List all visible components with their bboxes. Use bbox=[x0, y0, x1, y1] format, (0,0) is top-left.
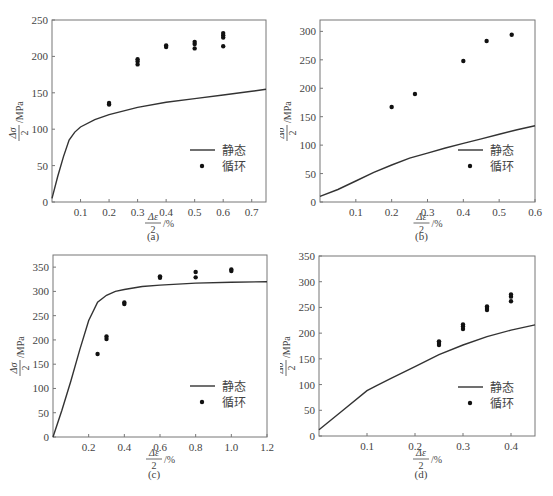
y-tick-label: 100 bbox=[300, 139, 317, 151]
y-tick-label: 50 bbox=[37, 160, 49, 172]
legend-static-label: 静态 bbox=[490, 144, 514, 158]
y-tick-label: 200 bbox=[300, 82, 317, 94]
x-tick-label: 0.1 bbox=[349, 206, 363, 218]
x-tick-label: 0.2 bbox=[82, 441, 96, 453]
cyclic-point bbox=[95, 352, 99, 356]
cyclic-point bbox=[158, 274, 162, 278]
svg-text:Δε: Δε bbox=[147, 211, 158, 222]
x-tick-label: 0.8 bbox=[189, 441, 203, 453]
static-curve bbox=[319, 325, 535, 430]
svg-text:Δε: Δε bbox=[416, 211, 427, 222]
cyclic-point bbox=[107, 101, 111, 105]
y-tick-label: 150 bbox=[299, 353, 316, 365]
cyclic-point bbox=[461, 59, 465, 63]
y-axis-label: Δσ2/MPa bbox=[280, 336, 297, 376]
svg-text:/%: /% bbox=[163, 218, 174, 229]
y-tick-label: 200 bbox=[33, 334, 50, 346]
cyclic-point bbox=[221, 31, 225, 35]
legend-cyclic-label: 循环 bbox=[490, 397, 514, 411]
subfigure-caption: (d) bbox=[415, 468, 428, 481]
x-tick-label: 0.5 bbox=[492, 206, 506, 218]
x-tick-label: 0.6 bbox=[216, 206, 230, 218]
svg-text:Δε: Δε bbox=[148, 447, 159, 458]
static-curve bbox=[53, 282, 267, 437]
x-tick-label: 0.4 bbox=[504, 440, 518, 452]
cyclic-point bbox=[135, 57, 139, 61]
x-tick-label: 0.2 bbox=[385, 206, 399, 218]
cyclic-point bbox=[104, 334, 108, 338]
legend-static-label: 静态 bbox=[222, 144, 246, 158]
svg-text:/%: /% bbox=[164, 454, 175, 465]
cyclic-point bbox=[192, 40, 196, 44]
cyclic-point bbox=[509, 292, 513, 296]
cyclic-point bbox=[509, 299, 513, 303]
y-axis-label: Δσ2/MPa bbox=[7, 101, 30, 141]
svg-text:/MPa: /MPa bbox=[281, 336, 292, 358]
chart-b: 0501001502002503000.10.20.30.40.50.6静态循环… bbox=[280, 0, 553, 250]
y-tick-label: 150 bbox=[300, 111, 317, 123]
x-tick-label: 0.4 bbox=[456, 206, 470, 218]
legend-cyclic-label: 循环 bbox=[490, 160, 514, 174]
y-tick-label: 100 bbox=[32, 123, 49, 135]
x-tick-label: 0.3 bbox=[456, 440, 470, 452]
panel-d: 0501001502002503003500.10.20.30.4静态循环Δσ2… bbox=[280, 250, 553, 496]
x-tick-label: 0.4 bbox=[117, 441, 131, 453]
y-tick-label: 0 bbox=[311, 196, 317, 208]
x-tick-label: 1.0 bbox=[224, 441, 238, 453]
svg-text:Δε: Δε bbox=[415, 447, 426, 458]
cyclic-point bbox=[413, 92, 417, 96]
y-tick-label: 250 bbox=[33, 310, 50, 322]
svg-text:/MPa: /MPa bbox=[14, 101, 25, 123]
cyclic-point bbox=[484, 39, 488, 43]
svg-text:Δσ: Δσ bbox=[7, 127, 18, 140]
legend-cyclic-label: 循环 bbox=[222, 396, 246, 410]
cyclic-point bbox=[485, 304, 489, 308]
cyclic-point bbox=[164, 43, 168, 47]
x-tick-label: 0.4 bbox=[159, 206, 173, 218]
y-tick-label: 300 bbox=[33, 285, 50, 297]
y-tick-label: 250 bbox=[300, 54, 317, 66]
chart-a: 0501001502002500.10.20.30.40.50.60.7静态循环… bbox=[0, 0, 280, 250]
cyclic-point bbox=[122, 300, 126, 304]
svg-text:2: 2 bbox=[286, 366, 297, 371]
svg-text:/MPa: /MPa bbox=[282, 101, 293, 123]
legend-cyclic-label: 循环 bbox=[222, 160, 246, 174]
legend-dot-icon bbox=[200, 164, 204, 168]
cyclic-point bbox=[192, 46, 196, 50]
plot-frame bbox=[52, 20, 266, 202]
y-tick-label: 0 bbox=[44, 431, 50, 443]
cyclic-point bbox=[193, 275, 197, 279]
y-tick-label: 50 bbox=[305, 168, 317, 180]
y-tick-label: 50 bbox=[38, 407, 50, 419]
legend-static-label: 静态 bbox=[222, 380, 246, 394]
cyclic-point bbox=[221, 44, 225, 48]
cyclic-point bbox=[461, 322, 465, 326]
chart-c: 0501001502002503003500.20.40.60.81.01.2静… bbox=[0, 250, 280, 496]
svg-text:/%: /% bbox=[431, 454, 442, 465]
y-tick-label: 300 bbox=[300, 25, 317, 37]
svg-text:2: 2 bbox=[19, 131, 30, 136]
panel-a: 0501001502002500.10.20.30.40.50.60.7静态循环… bbox=[0, 0, 280, 250]
x-tick-label: 0.1 bbox=[360, 440, 374, 452]
legend-dot-icon bbox=[468, 401, 472, 405]
y-tick-label: 100 bbox=[299, 379, 316, 391]
x-tick-label: 0.5 bbox=[188, 206, 202, 218]
x-tick-label: 0.6 bbox=[528, 206, 542, 218]
subfigure-caption: (c) bbox=[148, 468, 161, 481]
cyclic-point bbox=[437, 339, 441, 343]
legend-dot-icon bbox=[200, 400, 204, 404]
x-tick-label: 0.3 bbox=[131, 206, 145, 218]
y-tick-label: 350 bbox=[33, 261, 50, 273]
plot-frame bbox=[320, 20, 535, 202]
svg-text:Δσ: Δσ bbox=[8, 362, 19, 375]
cyclic-point bbox=[229, 267, 233, 271]
y-tick-label: 50 bbox=[304, 404, 316, 416]
cyclic-point bbox=[510, 33, 514, 37]
cyclic-point bbox=[193, 270, 197, 274]
y-tick-label: 200 bbox=[299, 327, 316, 339]
y-tick-label: 0 bbox=[43, 196, 49, 208]
y-tick-label: 200 bbox=[32, 50, 49, 62]
svg-text:/%: /% bbox=[432, 218, 443, 229]
y-tick-label: 250 bbox=[32, 14, 49, 26]
panel-c: 0501001502002503003500.20.40.60.81.01.2静… bbox=[0, 250, 280, 496]
